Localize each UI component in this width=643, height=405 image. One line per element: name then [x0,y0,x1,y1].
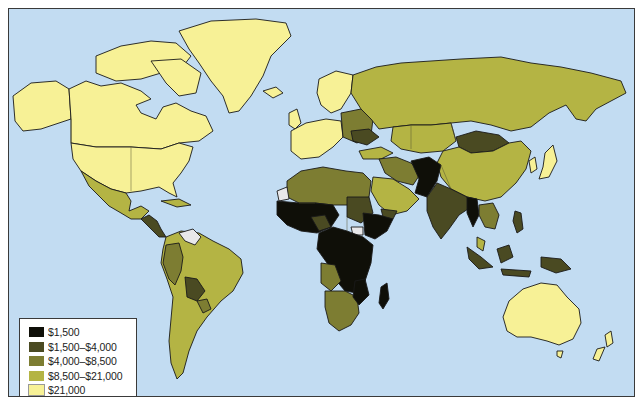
region-central-america [141,215,166,237]
legend-label: $8,500–$21,000 [48,370,123,382]
region-tasmania [557,351,563,358]
legend-swatch [29,356,44,366]
legend-swatch [29,371,44,381]
region-png [541,257,571,273]
region-greenland [179,19,291,113]
region-new-zealand [593,331,613,361]
region-indochina [479,203,499,229]
region-uk [289,109,301,129]
legend-item: $1,500–$4,000 [29,340,136,355]
region-russia [351,57,626,131]
legend-item: $4,000–$8,500 [29,354,136,369]
region-iceland [263,87,283,98]
legend-item: $8,500–$21,000 [29,369,136,384]
region-western-sahara [277,187,289,201]
legend-label: $21,000 [48,384,85,396]
region-alaska [13,81,71,131]
region-madagascar [379,283,389,309]
region-japan [539,145,557,179]
legend-item: $1,500 [29,325,136,340]
region-scandinavia [317,71,353,113]
region-malaysia [477,237,485,251]
region-philippines [513,211,523,233]
region-central-asia [391,123,456,153]
legend-swatch [29,385,44,395]
legend-label: $1,500 [48,326,80,338]
region-baffin [151,59,201,96]
region-caribbean [161,199,191,207]
legend-swatch [29,327,44,337]
legend-label: $1,500–$4,000 [48,341,117,353]
legend-item: $21,000 [29,383,136,397]
map-legend: $1,500 $1,500–$4,000 $4,000–$8,500 $8,50… [19,318,137,397]
world-map: $1,500 $1,500–$4,000 $4,000–$8,500 $8,50… [8,8,635,397]
region-myanmar [467,197,479,227]
region-usa [71,143,193,197]
legend-swatch [29,342,44,352]
region-australia [503,283,581,345]
region-indonesia [467,245,531,277]
legend-label: $4,000–$8,500 [48,355,117,367]
region-korea [529,157,537,173]
region-turkey [359,147,393,159]
